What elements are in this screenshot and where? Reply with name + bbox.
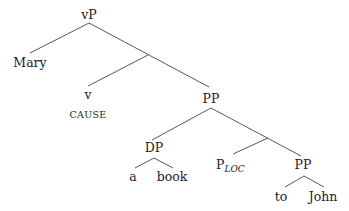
edge-vbar-v [88,55,148,86]
node-cause: CAUSE [69,109,106,120]
edge-PP-PP [211,108,301,156]
edge-PP-John [304,176,324,187]
node-vP: vP [80,7,96,22]
node-P-subscript: LOC [223,164,244,174]
node-v: v [83,87,92,102]
edge-pbar-Ploc [233,138,268,154]
edge-DP-a [135,158,154,168]
edge-vP-PP [89,23,209,87]
edge-DP-book [154,158,173,168]
node-P-loc: PLOC [216,157,245,174]
edge-PP-DP [152,108,211,140]
edge-vP-Mary [30,23,89,53]
node-book: book [157,169,188,184]
syntax-tree-diagram: vP Mary v CAUSE PP DP a book PLOC PP to … [0,0,349,211]
node-a: a [129,169,137,184]
tree-edges [30,23,324,187]
node-to: to [275,189,288,204]
node-P-base: P [216,157,224,172]
node-PP-upper: PP [203,91,220,106]
edge-PP-to [285,176,304,187]
node-Mary: Mary [13,55,47,70]
node-DP: DP [145,140,163,155]
node-PP-lower: PP [295,157,312,172]
node-John: John [307,189,338,204]
